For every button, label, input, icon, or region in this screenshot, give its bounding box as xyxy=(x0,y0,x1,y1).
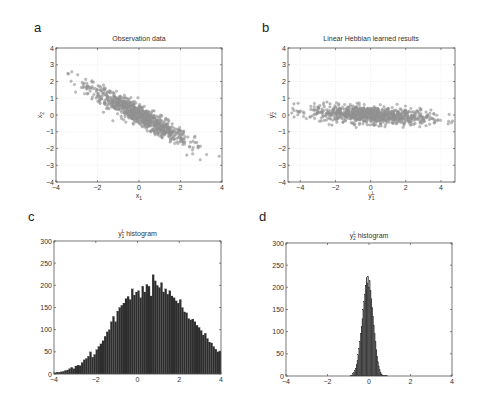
histogram-bar xyxy=(131,289,133,374)
panel-letter-d: d xyxy=(259,209,266,224)
histogram-bar xyxy=(377,356,378,376)
histogram-bar xyxy=(158,288,160,374)
histogram-bar xyxy=(154,281,156,374)
y-tick-label: 150 xyxy=(272,306,284,313)
histogram-bar xyxy=(165,289,167,374)
scatter-points xyxy=(67,71,221,162)
histogram-bar xyxy=(379,366,380,376)
x-tick-label: 4 xyxy=(220,184,224,191)
y-tick-label: −2 xyxy=(278,145,286,152)
panel-letter-c: c xyxy=(28,209,35,224)
histogram-bar xyxy=(123,303,125,374)
histogram-bar xyxy=(372,307,373,376)
x-tick-label: 0 xyxy=(367,378,371,385)
y-tick-label: 300 xyxy=(272,240,284,247)
y-axis-label: yL2 xyxy=(266,112,277,119)
x-tick-label: −2 xyxy=(324,378,332,385)
y-tick-label: 3 xyxy=(50,61,54,68)
y-tick-label: 50 xyxy=(276,350,284,357)
histogram-bar xyxy=(183,312,185,374)
y-tick-label: 300 xyxy=(40,238,52,245)
histogram-bar xyxy=(104,336,106,374)
histogram-bar xyxy=(376,349,377,376)
histogram-bar xyxy=(354,372,355,376)
y-tick-label: 50 xyxy=(44,348,52,355)
histogram-bar xyxy=(150,296,152,374)
histogram-bar xyxy=(89,352,91,374)
y-tick-label: 250 xyxy=(272,262,284,269)
histogram-bar xyxy=(127,296,129,374)
histogram-bar xyxy=(364,302,365,376)
histogram-bar xyxy=(115,322,117,374)
histogram-bar xyxy=(177,303,179,374)
histogram-bar xyxy=(380,372,381,376)
histogram-bar xyxy=(133,295,135,374)
histogram-bar xyxy=(173,298,175,374)
histogram-bar xyxy=(163,292,165,374)
histogram-bar xyxy=(102,341,104,374)
histogram-bar xyxy=(129,300,131,374)
x-tick-label: 4 xyxy=(219,376,223,383)
histogram-bar xyxy=(98,347,100,374)
histogram-bar xyxy=(77,365,79,374)
x-tick-label: −2 xyxy=(331,184,339,191)
panel-title: yL1 histogram xyxy=(118,228,157,239)
x-tick-label: 2 xyxy=(404,184,408,191)
y-tick-label: 250 xyxy=(40,260,52,267)
y-tick-label: −3 xyxy=(278,162,286,169)
histogram-bar xyxy=(200,331,202,374)
y-tick-label: −2 xyxy=(46,145,54,152)
histogram-bars xyxy=(350,276,387,376)
histogram-bar xyxy=(375,341,376,376)
histogram-bar xyxy=(96,350,98,374)
histogram-bar xyxy=(169,291,171,374)
histogram-bar xyxy=(79,366,81,374)
histogram-bar xyxy=(148,286,150,374)
histogram-bar xyxy=(358,355,359,376)
histogram-bar xyxy=(67,370,69,374)
histogram-bar xyxy=(192,319,194,374)
histogram-bar xyxy=(359,341,360,376)
y-tick-label: 2 xyxy=(50,78,54,85)
panel-a-observation-scatter: a Observation data −4−2024−4−3−2−101234x… xyxy=(34,20,224,201)
histogram-bar xyxy=(140,298,142,374)
x-tick-label: −4 xyxy=(296,184,304,191)
histogram-bar xyxy=(361,326,362,376)
y-tick-label: 4 xyxy=(50,45,54,52)
y-tick-label: 1 xyxy=(50,95,54,102)
histogram-bars xyxy=(54,275,221,374)
histogram-bar xyxy=(379,370,380,376)
y-tick-label: 3 xyxy=(282,61,286,68)
histogram-bar xyxy=(362,318,363,376)
y-tick-label: 0 xyxy=(280,373,284,380)
panel-title: yL2 histogram xyxy=(350,230,389,241)
histogram-bar xyxy=(369,281,370,376)
histogram-bar xyxy=(190,320,192,374)
x-tick-label: 4 xyxy=(439,184,443,191)
histogram-bar xyxy=(171,296,173,374)
histogram-bar xyxy=(87,356,89,374)
x-tick-label: −2 xyxy=(94,184,102,191)
histogram-bar xyxy=(83,360,85,374)
histogram-bar xyxy=(198,327,200,374)
histogram-bar xyxy=(188,319,190,374)
panel-b-title: Linear Hebbian learned results xyxy=(323,35,419,42)
histogram-bar xyxy=(75,366,77,374)
panel-letter-b: b xyxy=(262,20,269,35)
histogram-bar xyxy=(167,294,169,374)
histogram-bar xyxy=(211,343,213,374)
histogram-bar xyxy=(117,311,119,374)
histogram-bar xyxy=(85,358,87,374)
panel-c-y1-histogram: c −4−2024050100150200250300yL1 histogram xyxy=(28,209,223,383)
y-tick-label: 1 xyxy=(282,95,286,102)
panel-d-y2-histogram: d −4−2024050100150200250300yL2 histogram xyxy=(259,209,454,385)
y-tick-label: 150 xyxy=(40,304,52,311)
y-tick-label: −1 xyxy=(278,128,286,135)
histogram-bar xyxy=(206,339,208,374)
histogram-bar xyxy=(138,291,140,374)
x-tick-label: 0 xyxy=(136,376,140,383)
y-tick-label: 2 xyxy=(282,78,286,85)
histogram-bar xyxy=(112,316,114,374)
histogram-bar xyxy=(359,349,360,376)
histogram-bar xyxy=(156,285,158,374)
